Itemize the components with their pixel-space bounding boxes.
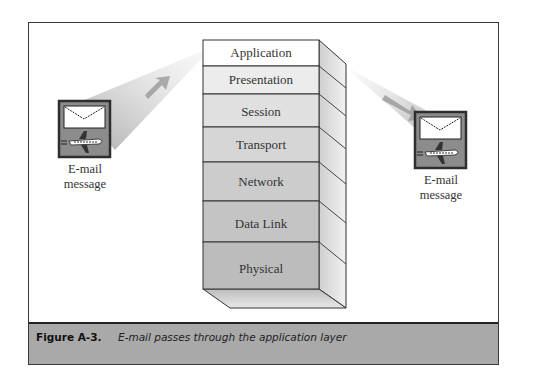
email-airplane-icon — [415, 112, 466, 168]
right-email-label-line2: message — [411, 188, 471, 203]
layer-label-physical: Physical — [239, 261, 283, 276]
stack-front: Application Presentation Session Transpo… — [203, 40, 319, 289]
layer-label-application: Application — [230, 45, 292, 60]
layer-label-presentation: Presentation — [229, 72, 294, 87]
left-email-label-line1: E-mail — [55, 162, 115, 177]
left-email-label: E-mail message — [55, 162, 115, 192]
layer-label-session: Session — [241, 104, 281, 119]
right-email-label: E-mail message — [411, 173, 471, 203]
left-email-label-line2: message — [55, 177, 115, 192]
email-airplane-icon — [59, 101, 110, 157]
layer-label-network: Network — [238, 174, 284, 189]
layer-label-transport: Transport — [236, 137, 286, 152]
right-email-label-line1: E-mail — [411, 173, 471, 188]
layer-label-data-link: Data Link — [235, 216, 288, 231]
